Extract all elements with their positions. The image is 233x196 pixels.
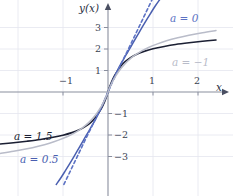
y-tick-label: −2: [114, 130, 128, 140]
y-tick-label: −1: [114, 109, 128, 119]
grid-lines: [0, 0, 233, 196]
x-tick-label: 1: [149, 76, 155, 86]
plot-svg: [0, 0, 233, 196]
series-annotation-0: a = 1.5: [14, 131, 52, 142]
x-tick-label: −1: [59, 76, 73, 86]
y-tick-label: 2: [95, 44, 101, 54]
y-tick-label: 3: [95, 23, 101, 33]
figure-canvas: −112321−1−2−3a = 1.5a = 0.5a = 0a = −1 y…: [0, 0, 233, 196]
series-annotation-1: a = 0.5: [20, 154, 58, 165]
y-tick-label: −3: [114, 152, 128, 162]
x-axis-arrowhead: [222, 89, 229, 95]
x-axis-label: x: [216, 82, 222, 93]
series-annotation-2: a = 0: [170, 13, 198, 24]
axis-lines: [0, 3, 229, 196]
series-annotation-3: a = −1: [172, 57, 209, 68]
y-axis-label: y(x): [79, 3, 99, 14]
y-axis-arrowhead: [105, 3, 111, 10]
x-tick-label: 2: [194, 76, 200, 86]
y-tick-label: 1: [95, 66, 101, 76]
